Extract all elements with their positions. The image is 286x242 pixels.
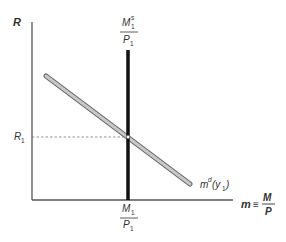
- svg-text:M: M: [122, 203, 131, 214]
- y-axis-label: R: [13, 16, 21, 28]
- x-tick-label: M 1 P 1: [120, 203, 138, 232]
- svg-text:M: M: [122, 17, 131, 28]
- money-supply-label: M 1 s P 1: [120, 14, 138, 47]
- equilibrium-point: [126, 135, 130, 139]
- svg-text:1: 1: [131, 23, 135, 30]
- money-market-diagram: R R 1 M 1 s P 1 m d (y 1 ) M 1 P 1: [0, 0, 286, 242]
- svg-text:(y: (y: [212, 179, 221, 190]
- svg-text:1: 1: [130, 40, 134, 47]
- svg-text:P: P: [123, 34, 130, 45]
- svg-text:1: 1: [130, 225, 134, 232]
- money-demand-curve: [46, 76, 190, 184]
- svg-text:): ): [225, 179, 229, 190]
- svg-text:P: P: [265, 206, 272, 217]
- r1-label: R 1: [14, 131, 25, 144]
- svg-text:s: s: [131, 14, 135, 21]
- svg-text:M: M: [263, 192, 272, 203]
- svg-text:P: P: [123, 219, 130, 230]
- svg-text:1: 1: [131, 209, 135, 216]
- money-demand-label: m d (y 1 ): [200, 176, 229, 192]
- x-axis-label: m ≡ M P: [241, 192, 275, 217]
- svg-text:≡: ≡: [253, 199, 259, 210]
- svg-text:1: 1: [21, 137, 25, 144]
- svg-text:m: m: [241, 198, 251, 210]
